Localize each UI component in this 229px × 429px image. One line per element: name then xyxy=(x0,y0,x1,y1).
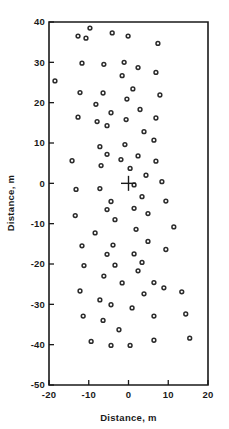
x-axis-title: Distance, m xyxy=(100,412,157,423)
data-point xyxy=(98,187,102,191)
data-point xyxy=(99,164,103,168)
data-point xyxy=(136,154,140,158)
data-point xyxy=(88,26,92,30)
data-point xyxy=(76,34,80,38)
y-tick-label: -10 xyxy=(31,218,45,229)
data-point xyxy=(144,173,148,177)
data-point xyxy=(140,195,144,199)
data-point xyxy=(80,61,84,65)
data-point xyxy=(126,34,130,38)
data-point xyxy=(132,206,136,210)
data-point xyxy=(105,152,109,156)
data-point xyxy=(73,214,77,218)
data-point xyxy=(93,231,97,235)
data-point xyxy=(111,243,115,247)
data-point xyxy=(152,338,156,342)
scatter-plot-figure: -50-40-30-20-10010203040 -20-1001020 Dis… xyxy=(0,0,229,429)
data-point xyxy=(105,208,109,212)
data-point xyxy=(82,264,86,268)
data-point xyxy=(109,200,113,204)
data-point xyxy=(134,227,138,231)
data-point xyxy=(119,158,123,162)
y-tick-label: -30 xyxy=(31,299,45,310)
data-point xyxy=(128,344,132,348)
data-point xyxy=(94,102,98,106)
data-point xyxy=(160,180,164,184)
data-point xyxy=(146,212,150,216)
data-point xyxy=(123,143,127,147)
data-point xyxy=(98,298,102,302)
y-tick-label: -20 xyxy=(31,258,45,269)
data-point xyxy=(164,248,168,252)
data-point xyxy=(146,240,150,244)
x-tick-label: 10 xyxy=(163,389,174,400)
data-point xyxy=(152,314,156,318)
data-point xyxy=(105,252,109,256)
data-point xyxy=(154,159,158,163)
data-point xyxy=(124,118,128,122)
y-tick-label: -40 xyxy=(31,339,45,350)
data-point xyxy=(125,97,129,101)
data-point xyxy=(138,108,142,112)
data-point xyxy=(158,93,162,97)
data-point xyxy=(81,314,85,318)
data-point xyxy=(136,66,140,70)
data-point xyxy=(80,244,84,248)
data-point xyxy=(120,74,124,78)
data-point xyxy=(128,167,132,171)
data-point xyxy=(78,289,82,293)
data-point xyxy=(184,312,188,316)
plot-canvas: -50-40-30-20-10010203040 -20-1001020 Dis… xyxy=(0,0,229,429)
data-point xyxy=(102,274,106,278)
y-tick-label: 0 xyxy=(40,178,45,189)
data-point xyxy=(154,116,158,120)
data-point xyxy=(162,286,166,290)
data-point xyxy=(122,60,126,64)
data-point xyxy=(130,306,134,310)
data-point xyxy=(109,111,113,115)
y-tick-label: 30 xyxy=(34,57,45,68)
x-tick-label: -10 xyxy=(82,389,96,400)
data-point xyxy=(188,336,192,340)
y-tick-label: 40 xyxy=(34,16,45,27)
data-point xyxy=(89,340,93,344)
data-point xyxy=(113,263,117,267)
data-point xyxy=(101,91,105,95)
data-point xyxy=(109,303,113,307)
data-point xyxy=(78,91,82,95)
data-point xyxy=(172,225,176,229)
data-point xyxy=(102,62,106,66)
y-tick-label: 10 xyxy=(34,137,45,148)
data-point xyxy=(117,328,121,332)
data-point xyxy=(131,87,135,91)
data-point xyxy=(142,130,146,134)
data-point xyxy=(110,31,114,35)
data-point xyxy=(152,138,156,142)
x-tick-label: 0 xyxy=(126,389,131,400)
y-axis-ticks: -50-40-30-20-10010203040 xyxy=(31,16,54,390)
y-axis-title: Distance, m xyxy=(5,175,16,232)
plot-frame xyxy=(49,22,208,385)
data-point xyxy=(98,145,102,149)
data-point xyxy=(84,36,88,40)
data-point xyxy=(109,344,113,348)
x-tick-label: 20 xyxy=(203,389,214,400)
data-point xyxy=(70,159,74,163)
data-point xyxy=(180,290,184,294)
x-axis-ticks: -20-1001020 xyxy=(42,380,214,400)
data-point xyxy=(132,252,136,256)
annotations-layer xyxy=(121,176,136,191)
data-point xyxy=(164,199,168,203)
data-point xyxy=(120,281,124,285)
data-point xyxy=(95,120,99,124)
data-point xyxy=(105,124,109,128)
data-point xyxy=(76,115,80,119)
data-point xyxy=(156,41,160,45)
data-point xyxy=(74,187,78,191)
data-point xyxy=(142,292,146,296)
data-point xyxy=(53,79,57,83)
data-point xyxy=(113,218,117,222)
data-point xyxy=(154,71,158,75)
data-point xyxy=(152,281,156,285)
x-tick-label: -20 xyxy=(42,389,56,400)
